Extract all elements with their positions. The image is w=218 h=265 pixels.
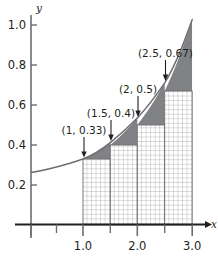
riemann-rect-1 <box>83 159 110 225</box>
annotation-label-3: (2, 0.5) <box>119 83 157 95</box>
y-tick-label-1.0: 1.0 <box>8 18 26 32</box>
x-tick-label-1.0: 1.0 <box>74 239 92 253</box>
y-tick-label-0.2: 0.2 <box>8 178 26 192</box>
x-tick-label-3.0: 3.0 <box>183 239 201 253</box>
riemann-rect-4 <box>165 91 193 225</box>
y-tick-label-0.6: 0.6 <box>8 98 26 112</box>
riemann-sum-figure: 1.0 0.8 0.6 0.4 0.2 1.0 2.0 3.0 y x <box>0 0 218 265</box>
y-axis-label: y <box>35 2 43 14</box>
riemann-rect-3 <box>137 125 164 225</box>
riemann-rect-2 <box>110 145 137 225</box>
x-ticks <box>31 225 192 237</box>
y-tick-label-0.4: 0.4 <box>8 138 26 152</box>
annotation-label-2: (1.5, 0.4) <box>87 107 135 119</box>
annotation-label-1: (1, 0.33) <box>62 124 107 136</box>
annotation-label-4: (2.5, 0.67) <box>138 47 193 59</box>
x-tick-label-2.0: 2.0 <box>128 239 146 253</box>
chart-canvas: 1.0 0.8 0.6 0.4 0.2 1.0 2.0 3.0 y x <box>0 0 218 265</box>
annotation-arrow-head-1 <box>81 152 86 158</box>
y-tick-label-0.8: 0.8 <box>8 58 26 72</box>
y-ticks <box>31 25 37 185</box>
x-axis-label: x <box>211 218 217 230</box>
